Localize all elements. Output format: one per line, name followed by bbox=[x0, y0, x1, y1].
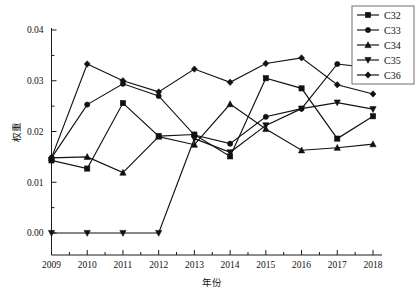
x-tick-label: 2015 bbox=[256, 260, 275, 270]
data-point-c32-2016 bbox=[299, 86, 304, 91]
legend-label-c35: C35 bbox=[384, 55, 401, 66]
data-point-c33-2017 bbox=[335, 61, 340, 66]
legend-label-c32: C32 bbox=[384, 10, 401, 21]
x-axis-title: 年份 bbox=[202, 277, 222, 288]
y-tick-label: 0.04 bbox=[27, 25, 44, 35]
data-point-c36-2014 bbox=[227, 79, 233, 85]
chart-figure: 0.000.010.020.030.04 2009201020112012201… bbox=[0, 0, 418, 298]
data-point-c32-2017 bbox=[335, 136, 340, 141]
x-tick-label: 2018 bbox=[364, 260, 383, 270]
series-line-c34 bbox=[52, 104, 374, 173]
legend-marker-square-icon bbox=[365, 12, 370, 17]
series-c32 bbox=[49, 76, 376, 172]
data-point-c32-2015 bbox=[263, 76, 268, 81]
data-point-c36-2013 bbox=[191, 66, 197, 72]
x-tick-label: 2009 bbox=[42, 260, 61, 270]
data-point-c34-2014 bbox=[227, 101, 233, 107]
y-tick-label: 0.01 bbox=[27, 178, 44, 188]
legend-label-c36: C36 bbox=[384, 70, 401, 81]
y-axis-tick-labels: 0.000.010.020.030.04 bbox=[27, 25, 44, 238]
y-tick-label: 0.03 bbox=[27, 76, 44, 86]
y-tick-label: 0.00 bbox=[27, 228, 44, 238]
series-c34 bbox=[48, 101, 376, 175]
data-point-c32-2011 bbox=[120, 100, 125, 105]
y-tick-label: 0.02 bbox=[27, 127, 44, 137]
x-tick-label: 2017 bbox=[328, 260, 347, 270]
x-tick-label: 2013 bbox=[185, 260, 204, 270]
legend-label-c33: C33 bbox=[384, 25, 401, 36]
legend-marker-circle-icon bbox=[365, 27, 370, 32]
x-tick-label: 2010 bbox=[78, 260, 97, 270]
chart-legend: C32C33C34C35C36 bbox=[352, 6, 414, 84]
data-point-c35-2018 bbox=[370, 107, 376, 113]
series-line-c36 bbox=[52, 58, 374, 158]
x-tick-label: 2014 bbox=[221, 260, 240, 270]
x-tick-label: 2016 bbox=[292, 260, 311, 270]
x-axis-tick-labels: 2009201020112012201320142015201620172018 bbox=[42, 260, 383, 270]
y-axis-ticks bbox=[52, 30, 57, 233]
x-axis-ticks bbox=[52, 250, 374, 255]
series-line-c35 bbox=[52, 103, 374, 233]
data-point-c33-2010 bbox=[85, 102, 90, 107]
data-point-c32-2010 bbox=[85, 166, 90, 171]
data-point-c33-2015 bbox=[263, 114, 268, 119]
x-tick-label: 2011 bbox=[114, 260, 133, 270]
data-point-c33-2014 bbox=[228, 141, 233, 146]
data-point-c36-2015 bbox=[263, 60, 269, 66]
data-point-c36-2010 bbox=[84, 61, 90, 67]
series-line-c33 bbox=[52, 64, 374, 158]
series-line-c32 bbox=[52, 78, 374, 168]
line-chart-canvas: 0.000.010.020.030.04 2009201020112012201… bbox=[0, 0, 418, 298]
data-point-c32-2018 bbox=[370, 114, 375, 119]
series-c35 bbox=[48, 100, 376, 236]
data-series-layer bbox=[48, 55, 376, 237]
plot-axes bbox=[52, 28, 383, 255]
x-tick-label: 2012 bbox=[149, 260, 168, 270]
legend-label-c34: C34 bbox=[384, 40, 401, 51]
data-point-c36-2018 bbox=[370, 91, 376, 97]
y-axis-title: 权重 bbox=[11, 122, 22, 142]
